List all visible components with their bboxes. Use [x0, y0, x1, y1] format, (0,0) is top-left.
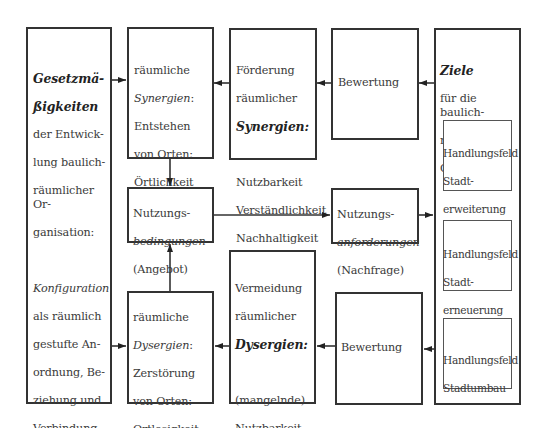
arrows-layer: [0, 0, 545, 428]
